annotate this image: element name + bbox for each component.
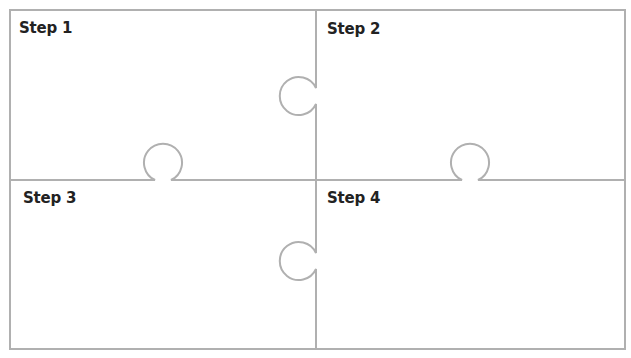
horizontal-divider: [10, 144, 625, 180]
piece-label-step-3: Step 3: [23, 189, 76, 207]
puzzle-diagram: [0, 0, 631, 358]
piece-label-step-2: Step 2: [327, 20, 380, 38]
piece-label-step-4: Step 4: [327, 189, 380, 207]
piece-label-step-1: Step 1: [19, 19, 72, 37]
